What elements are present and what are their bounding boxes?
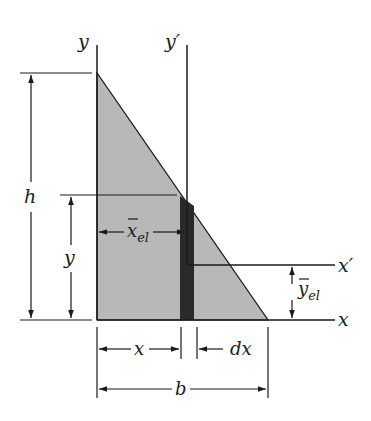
x-prime-axis-label: x′ [338, 254, 354, 276]
centroid-diagram: y y′ x x′ h y xel yel x dx b [0, 0, 371, 421]
x-axis-label: x [338, 308, 349, 330]
y-prime-axis-label: y′ [164, 30, 181, 52]
b-dim-label: b [175, 378, 187, 399]
y-dim-label: y [63, 246, 75, 268]
dx-dim-label: dx [230, 338, 252, 359]
x-dim-label: x [134, 338, 144, 359]
h-label: h [24, 185, 36, 207]
y-axis-label: y [77, 30, 89, 52]
y-el-label: yel [297, 278, 320, 303]
